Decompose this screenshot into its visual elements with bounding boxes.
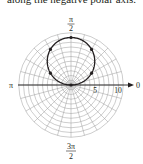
data-point: [90, 48, 93, 51]
label-pi: π: [9, 81, 13, 90]
axis-arrow-icon: [128, 83, 134, 88]
grid-spoke: [71, 40, 97, 85]
label-3pi-over-2-den: 2: [69, 152, 73, 161]
grid-spoke: [71, 59, 116, 85]
label-3pi-over-2-num: 3π: [67, 142, 75, 151]
tick-label-5: 5: [93, 86, 97, 95]
grid-spoke: [45, 85, 71, 130]
label-pi-over-2-num: π: [69, 15, 73, 24]
data-point: [90, 72, 93, 75]
grid-spoke: [26, 59, 71, 85]
grid-spoke: [26, 85, 71, 111]
label-pi-over-2-den: 2: [69, 24, 73, 33]
data-point: [49, 72, 52, 75]
grid-spoke: [34, 48, 71, 85]
grid-spoke: [45, 40, 71, 85]
data-point: [69, 36, 72, 39]
grid-spoke: [71, 48, 108, 85]
grid-spoke: [34, 85, 71, 122]
data-point: [49, 48, 52, 51]
label-zero: 0: [136, 81, 140, 90]
tick-label-10: 10: [114, 86, 122, 95]
data-point: [69, 83, 72, 86]
grid-spoke: [71, 85, 108, 122]
polar-chart: π 2 π 0 5 10 3π 2: [0, 0, 143, 164]
